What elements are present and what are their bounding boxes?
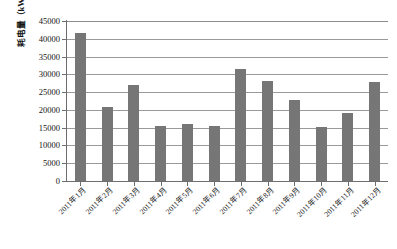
x-tick-mark xyxy=(375,182,376,186)
x-tick-mark xyxy=(268,182,269,186)
x-tick-mark xyxy=(321,182,322,186)
y-tick-mark xyxy=(62,92,67,93)
y-tick-mark xyxy=(62,74,67,75)
x-axis-tick-labels: 2011年1月2011年2月2011年3月2011年4月2011年5月2011年… xyxy=(0,0,397,249)
y-tick-mark xyxy=(62,39,67,40)
x-tick-mark xyxy=(294,182,295,186)
x-tick-mark xyxy=(80,182,81,186)
x-tick-mark xyxy=(161,182,162,186)
y-tick-mark xyxy=(62,110,67,111)
x-tick-label: 2011年1月 xyxy=(40,186,88,234)
x-tick-mark xyxy=(241,182,242,186)
x-tick-mark xyxy=(134,182,135,186)
x-tick-mark xyxy=(187,182,188,186)
x-tick-mark xyxy=(348,182,349,186)
y-tick-mark xyxy=(62,128,67,129)
chart-figure: 耗电量（kWh） 4500040000350003000025000200001… xyxy=(0,0,397,249)
y-tick-mark xyxy=(62,145,67,146)
x-tick-mark xyxy=(107,182,108,186)
figure-caption xyxy=(0,240,397,249)
y-tick-mark xyxy=(62,21,67,22)
y-tick-mark xyxy=(62,181,67,182)
y-tick-mark xyxy=(62,57,67,58)
x-tick-mark xyxy=(214,182,215,186)
y-tick-mark xyxy=(62,163,67,164)
